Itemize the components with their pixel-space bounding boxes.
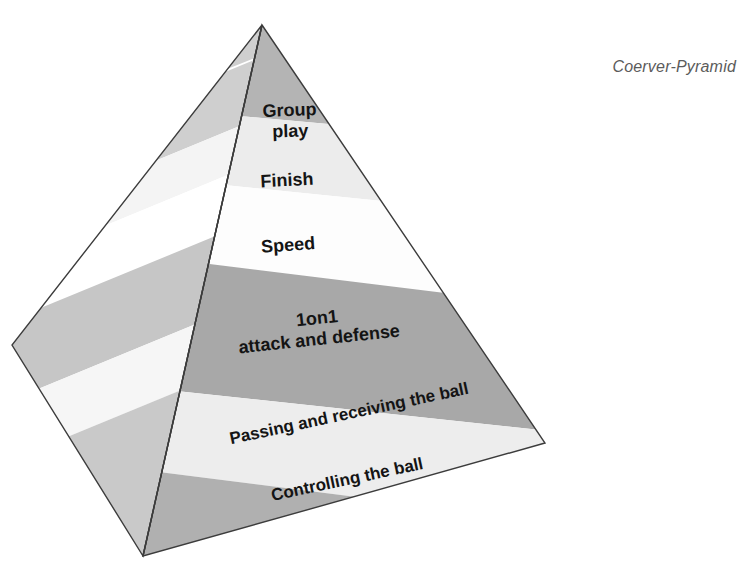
coerver-pyramid-figure: Group play Finish Speed 1on1 attack and … xyxy=(0,0,744,569)
figure-caption: Coerver-Pyramid xyxy=(612,58,736,76)
pyramid-layer-label-group-play: Group play xyxy=(234,98,345,143)
layer-label-line-2: play xyxy=(235,119,346,143)
right-band-group-play xyxy=(0,0,744,162)
